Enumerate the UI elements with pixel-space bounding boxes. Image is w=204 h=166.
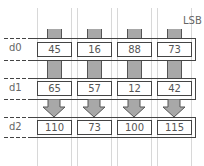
cell-d0-1: 16	[77, 42, 112, 57]
row-border	[28, 137, 196, 138]
row-border	[28, 78, 196, 79]
row-dash	[4, 117, 28, 118]
cell-d2-3: 115	[157, 120, 192, 135]
down-arrow-icon	[162, 99, 186, 118]
row-label-d0: d0	[9, 42, 22, 53]
cell-d2-0: 110	[37, 120, 72, 135]
lane-bar	[87, 60, 102, 78]
row-label-d2: d2	[9, 121, 22, 132]
row-dash	[4, 38, 28, 39]
down-arrow-icon	[82, 99, 106, 118]
lane-bar	[127, 29, 142, 38]
cell-d1-1: 57	[77, 81, 112, 96]
row-border	[195, 78, 196, 100]
cell-d2-2: 100	[117, 120, 152, 135]
lane-bar	[47, 29, 62, 38]
down-arrow-icon	[42, 99, 66, 118]
row-dash	[4, 78, 28, 79]
row-border	[195, 117, 196, 138]
row-border	[28, 60, 196, 61]
lsb-label: LSB	[183, 15, 202, 26]
lane-bar	[47, 60, 62, 78]
cell-d0-3: 73	[157, 42, 192, 57]
lane-bar	[167, 60, 182, 78]
down-arrow-icon	[122, 99, 146, 118]
lane-bar	[87, 29, 102, 38]
row-border	[195, 38, 196, 61]
row-dash	[4, 137, 28, 138]
row-label-d1: d1	[9, 82, 22, 93]
cell-d1-2: 12	[117, 81, 152, 96]
lane-bar	[127, 60, 142, 78]
row-border	[28, 38, 196, 39]
cell-d2-1: 73	[77, 120, 112, 135]
row-dash	[4, 60, 28, 61]
row-dash	[4, 99, 28, 100]
cell-d1-0: 65	[37, 81, 72, 96]
cell-d1-3: 42	[157, 81, 192, 96]
cell-d0-0: 45	[37, 42, 72, 57]
lane-diagram: LSB d0 d1 d2 45 16 88 73 65 57	[0, 0, 204, 166]
cell-d0-2: 88	[117, 42, 152, 57]
lane-bar	[167, 29, 182, 38]
